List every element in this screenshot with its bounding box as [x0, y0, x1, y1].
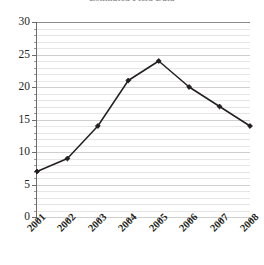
y-tick-major — [32, 22, 36, 23]
y-tick-minor — [34, 100, 36, 101]
line-chart-figure: Estimated Field Data 051015202530 200120… — [0, 0, 264, 265]
y-tick-minor — [34, 35, 36, 36]
y-tick-minor — [34, 42, 36, 43]
y-tick-minor — [34, 113, 36, 114]
series-line — [37, 61, 250, 172]
series-markers — [35, 59, 253, 174]
y-tick-major — [32, 87, 36, 88]
y-tick-minor — [34, 165, 36, 166]
y-tick-minor — [34, 94, 36, 95]
y-tick-minor — [34, 74, 36, 75]
y-tick-minor — [34, 191, 36, 192]
y-tick-minor — [34, 81, 36, 82]
y-tick-minor — [34, 61, 36, 62]
y-tick-major — [32, 55, 36, 56]
y-tick-minor — [34, 68, 36, 69]
y-tick-minor — [34, 159, 36, 160]
y-tick-minor — [34, 198, 36, 199]
y-tick-minor — [34, 172, 36, 173]
y-tick-minor — [34, 178, 36, 179]
y-tick-minor — [34, 139, 36, 140]
y-tick-minor — [34, 146, 36, 147]
y-tick-minor — [34, 48, 36, 49]
y-tick-major — [32, 152, 36, 153]
y-tick-minor — [34, 29, 36, 30]
y-tick-major — [32, 185, 36, 186]
y-tick-minor — [34, 107, 36, 108]
y-tick-minor — [34, 211, 36, 212]
y-tick-minor — [34, 133, 36, 134]
y-tick-minor — [34, 204, 36, 205]
y-tick-major — [32, 120, 36, 121]
y-tick-minor — [34, 126, 36, 127]
